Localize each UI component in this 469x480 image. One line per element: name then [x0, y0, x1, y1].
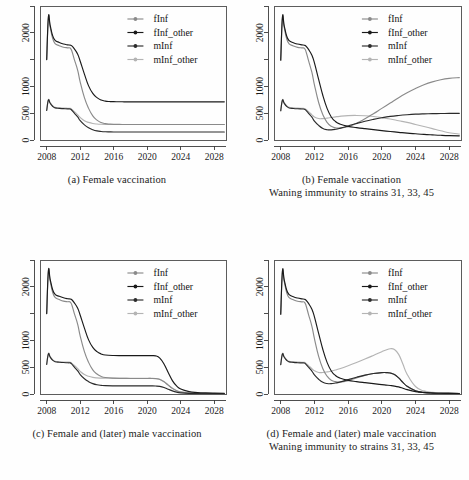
svg-text:500: 500 [255, 360, 265, 375]
svg-text:fInf: fInf [153, 267, 168, 278]
svg-text:2020: 2020 [138, 152, 157, 162]
svg-text:2024: 2024 [171, 406, 190, 416]
svg-text:0: 0 [21, 391, 31, 396]
svg-text:fInf_other: fInf_other [388, 281, 428, 292]
chart-d: 050010002000200820122016202020242028fInf… [234, 254, 469, 424]
svg-text:2008: 2008 [37, 152, 56, 162]
caption-a-line1: (a) Female vaccination [68, 173, 166, 186]
svg-text:2024: 2024 [406, 406, 425, 416]
svg-text:mInf_other: mInf_other [388, 54, 433, 65]
caption-d: (d) Female and (later) male vaccination … [267, 427, 437, 453]
svg-text:2028: 2028 [440, 152, 459, 162]
figure-grid: 050010002000200820122016202020242028fInf… [0, 0, 469, 480]
svg-text:mInf: mInf [153, 294, 173, 305]
chart-b: 050010002000200820122016202020242028fInf… [234, 0, 469, 170]
svg-text:500: 500 [255, 106, 265, 121]
caption-c-line1: (c) Female and (later) male vaccination [32, 427, 201, 440]
svg-text:mInf: mInf [388, 294, 408, 305]
svg-text:2016: 2016 [104, 152, 123, 162]
svg-text:2008: 2008 [37, 406, 56, 416]
svg-text:0: 0 [255, 137, 265, 142]
caption-d-line1: (d) Female and (later) male vaccination [267, 427, 437, 440]
svg-text:mInf_other: mInf_other [153, 308, 198, 319]
svg-text:fInf: fInf [388, 267, 403, 278]
svg-text:1000: 1000 [21, 77, 31, 96]
svg-text:1000: 1000 [21, 331, 31, 350]
svg-text:500: 500 [21, 360, 31, 375]
svg-text:fInf: fInf [388, 13, 403, 24]
svg-text:mInf: mInf [153, 40, 173, 51]
svg-text:2000: 2000 [255, 277, 265, 296]
svg-text:2020: 2020 [372, 406, 391, 416]
svg-text:fInf: fInf [153, 13, 168, 24]
chart-c: 050010002000200820122016202020242028fInf… [0, 254, 234, 424]
svg-text:2016: 2016 [104, 406, 123, 416]
svg-text:fInf_other: fInf_other [153, 27, 193, 38]
svg-text:2028: 2028 [205, 152, 224, 162]
panel-c: 050010002000200820122016202020242028fInf… [0, 254, 234, 480]
svg-text:2020: 2020 [372, 152, 391, 162]
caption-d-line2: Waning immunity to strains 31, 33, 45 [267, 440, 437, 453]
svg-text:2024: 2024 [406, 152, 425, 162]
plot-area-d: 050010002000200820122016202020242028fInf… [234, 254, 469, 424]
svg-text:2024: 2024 [171, 152, 190, 162]
plot-area-c: 050010002000200820122016202020242028fInf… [0, 254, 234, 424]
caption-b-line1: (b) Female vaccination [269, 173, 434, 186]
plot-area-b: 050010002000200820122016202020242028fInf… [234, 0, 469, 170]
caption-b-line2: Waning immunity to strains 31, 33, 45 [269, 186, 434, 199]
svg-text:2008: 2008 [271, 152, 290, 162]
caption-a: (a) Female vaccination [68, 173, 166, 186]
panel-a: 050010002000200820122016202020242028fInf… [0, 0, 234, 254]
svg-text:2012: 2012 [71, 152, 90, 162]
svg-text:2000: 2000 [21, 23, 31, 42]
svg-text:2028: 2028 [440, 406, 459, 416]
svg-text:0: 0 [21, 137, 31, 142]
svg-text:500: 500 [21, 106, 31, 121]
svg-text:0: 0 [255, 391, 265, 396]
svg-text:1000: 1000 [255, 77, 265, 96]
svg-text:2012: 2012 [71, 406, 90, 416]
plot-area-a: 050010002000200820122016202020242028fInf… [0, 0, 234, 170]
svg-text:fInf_other: fInf_other [388, 27, 428, 38]
svg-text:2028: 2028 [205, 406, 224, 416]
panel-d: 050010002000200820122016202020242028fInf… [234, 254, 469, 480]
caption-c: (c) Female and (later) male vaccination [32, 427, 201, 440]
svg-text:2016: 2016 [339, 152, 358, 162]
svg-text:2016: 2016 [339, 406, 358, 416]
svg-text:fInf_other: fInf_other [153, 281, 193, 292]
caption-b: (b) Female vaccination Waning immunity t… [269, 173, 434, 199]
svg-text:2012: 2012 [305, 406, 324, 416]
svg-text:2000: 2000 [255, 23, 265, 42]
svg-text:mInf_other: mInf_other [153, 54, 198, 65]
svg-text:2008: 2008 [271, 406, 290, 416]
svg-text:mInf: mInf [388, 40, 408, 51]
svg-text:1000: 1000 [255, 331, 265, 350]
svg-text:2020: 2020 [138, 406, 157, 416]
svg-text:2000: 2000 [21, 277, 31, 296]
svg-text:2012: 2012 [305, 152, 324, 162]
panel-b: 050010002000200820122016202020242028fInf… [234, 0, 469, 254]
chart-a: 050010002000200820122016202020242028fInf… [0, 0, 234, 170]
svg-text:mInf_other: mInf_other [388, 308, 433, 319]
